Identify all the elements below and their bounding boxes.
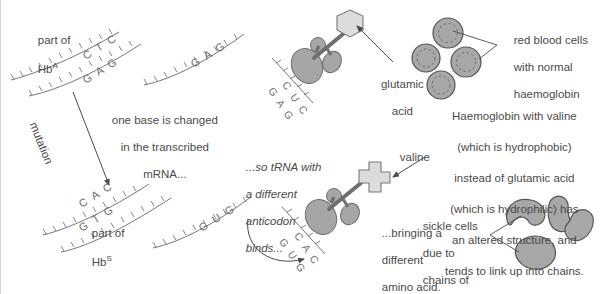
sickle-cells-label-line3: chains of bbox=[423, 274, 469, 286]
sickle-cells-label-line2: due to bbox=[423, 247, 455, 259]
haemoglobin-explanation-line1: Haemoglobin with valine bbox=[452, 110, 577, 122]
dna-normal-label-line2: Hb bbox=[38, 63, 53, 75]
dna-sickle-label-line1: part of bbox=[92, 227, 125, 239]
figure-canvas: part of HbA C T C G A G mutation C A C G… bbox=[0, 0, 612, 294]
sickle-cells-label-line1: sickle cells bbox=[423, 220, 478, 232]
dna-sickle-label-line2: Hb bbox=[92, 256, 107, 268]
dna-normal-label-sup: A bbox=[52, 61, 57, 70]
haemoglobin-explanation-line2: (which is hydrophobic) bbox=[457, 141, 571, 153]
sickle-cells-label: sickle cells due to chains of haemoglobi… bbox=[410, 206, 496, 294]
dna-sickle-label-sup: S bbox=[106, 254, 111, 263]
trna-binding-note-line2: a different bbox=[246, 188, 297, 200]
mrna-change-note-line3: mRNA... bbox=[143, 168, 186, 180]
haemoglobin-explanation-line3: instead of glutamic acid bbox=[454, 172, 574, 184]
valine-cross bbox=[359, 162, 390, 192]
glutamic-acid-label-line1: glutamic bbox=[381, 78, 424, 90]
rbc-label-line1: red blood cells bbox=[514, 34, 588, 46]
dna-sickle-label: part of HbS bbox=[79, 213, 124, 283]
rbc-label-line2: with normal bbox=[514, 61, 573, 73]
glutamic-acid-arrow bbox=[357, 26, 393, 62]
mrna-change-note: one base is changed in the transcribed m… bbox=[96, 100, 221, 195]
mrna-change-note-line1: one base is changed bbox=[112, 114, 218, 126]
dna-normal-label-line1: part of bbox=[38, 34, 71, 46]
glutamic-acid-hexagon bbox=[337, 10, 363, 37]
mrna-change-note-line2: in the transcribed bbox=[121, 141, 209, 153]
trna-binding-note-line1: ...so tRNA with bbox=[246, 161, 322, 173]
